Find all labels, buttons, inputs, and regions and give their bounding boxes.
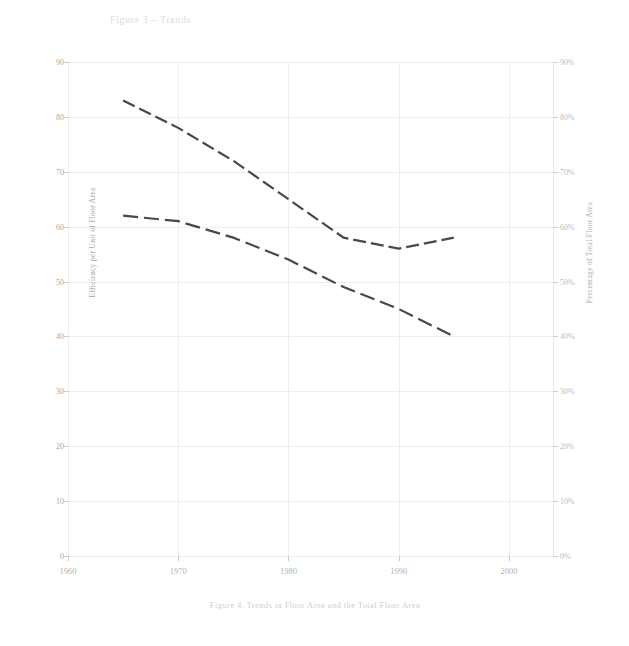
bottom-tick-label: 2000: [479, 566, 539, 576]
vertical-gridline: [509, 62, 510, 556]
right-axis-title: Percentage of Total Floor Area: [585, 148, 594, 358]
horizontal-gridline: [68, 446, 553, 447]
right-tick-mark: [553, 501, 558, 502]
left-tick-mark: [64, 282, 69, 283]
right-tick-mark: [553, 391, 558, 392]
right-tick-label: 20%: [560, 442, 590, 451]
left-tick-label: 90: [38, 58, 64, 67]
left-tick-mark: [64, 336, 69, 337]
right-tick-mark: [553, 446, 558, 447]
right-tick-label: 80%: [560, 112, 590, 121]
left-tick-label: 0: [38, 552, 64, 561]
left-tick-label: 80: [38, 112, 64, 121]
bottom-tick-label: 1980: [258, 566, 318, 576]
left-tick-label: 50: [38, 277, 64, 286]
left-tick-mark: [64, 501, 69, 502]
left-tick-label: 20: [38, 442, 64, 451]
right-tick-label: 0%: [560, 552, 590, 561]
left-tick-mark: [64, 446, 69, 447]
bottom-tick-label: 1970: [148, 566, 208, 576]
right-tick-label: 30%: [560, 387, 590, 396]
left-tick-mark: [64, 117, 69, 118]
bottom-tick-mark: [288, 556, 289, 561]
right-tick-mark: [553, 282, 558, 283]
left-tick-mark: [64, 391, 69, 392]
plot-area: [68, 62, 553, 556]
right-tick-mark: [553, 227, 558, 228]
horizontal-gridline: [68, 172, 553, 173]
right-tick-label: 10%: [560, 497, 590, 506]
left-tick-label: 60: [38, 222, 64, 231]
horizontal-gridline: [68, 282, 553, 283]
bottom-tick-mark: [178, 556, 179, 561]
horizontal-gridline: [68, 501, 553, 502]
right-tick-label: 90%: [560, 58, 590, 67]
right-tick-mark: [553, 336, 558, 337]
horizontal-gridline: [68, 391, 553, 392]
chart-figure: Figure 3 – Trends 9080706050403020100 90…: [0, 0, 629, 646]
right-tick-mark: [553, 172, 558, 173]
bottom-tick-mark: [509, 556, 510, 561]
right-tick-mark: [553, 556, 558, 557]
left-tick-label: 40: [38, 332, 64, 341]
vertical-gridline: [288, 62, 289, 556]
left-tick-label: 30: [38, 387, 64, 396]
bottom-tick-mark: [68, 556, 69, 561]
chart-title: Figure 3 – Trends: [110, 14, 370, 25]
right-axis-spine: [553, 62, 554, 556]
bottom-tick-mark: [399, 556, 400, 561]
left-tick-mark: [64, 172, 69, 173]
horizontal-gridline: [68, 336, 553, 337]
left-tick-label: 70: [38, 167, 64, 176]
left-axis-title: Efficiency per Unit of Floor Area: [88, 143, 97, 343]
horizontal-gridline: [68, 556, 553, 557]
left-axis-tick-labels: 9080706050403020100: [34, 62, 64, 556]
right-tick-mark: [553, 117, 558, 118]
horizontal-gridline: [68, 227, 553, 228]
bottom-tick-label: 1990: [369, 566, 429, 576]
vertical-gridline: [399, 62, 400, 556]
left-tick-mark: [64, 62, 69, 63]
left-tick-label: 10: [38, 497, 64, 506]
right-tick-mark: [553, 62, 558, 63]
bottom-tick-label: 1960: [38, 566, 98, 576]
horizontal-gridline: [68, 117, 553, 118]
horizontal-gridline: [68, 62, 553, 63]
chart-caption: Figure 4. Trends in Floor Area and the T…: [40, 600, 590, 610]
vertical-gridline: [68, 62, 69, 556]
left-tick-mark: [64, 227, 69, 228]
vertical-gridline: [178, 62, 179, 556]
